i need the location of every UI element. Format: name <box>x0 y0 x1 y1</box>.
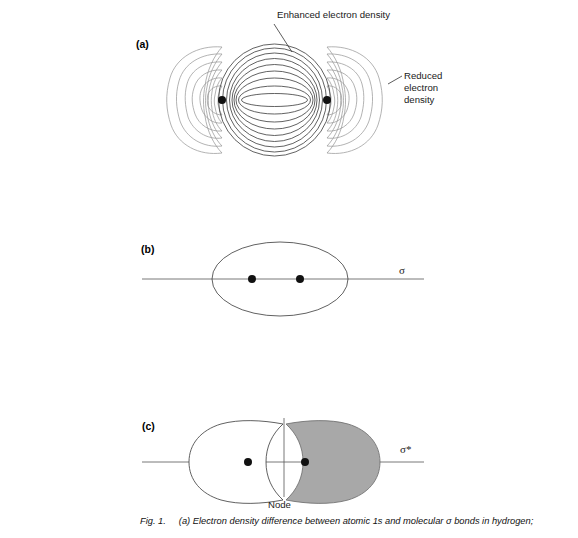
panel-c-label: (c) <box>142 420 155 432</box>
panel-a-left-reduced-contours <box>167 47 222 154</box>
panel-a-nucleus-right <box>323 96 331 104</box>
sigma-orbital-label: σ <box>399 264 405 276</box>
panel-a: (a) <box>136 9 442 156</box>
panel-a-right-reduced-contours <box>327 47 382 154</box>
reduced-electron-density-label-line1: Reduced <box>404 70 442 81</box>
figure-number: Fig. 1. <box>140 516 166 526</box>
figure-container: (a) <box>0 0 578 538</box>
panel-a-enhanced-contours <box>219 44 331 156</box>
node-label: Node <box>268 499 291 510</box>
figure-caption-text: (a) Electron density difference between … <box>179 516 533 526</box>
panel-b-nucleus-right <box>296 275 304 283</box>
reduced-electron-density-label-line2: electron <box>404 82 438 93</box>
panel-c-nucleus-right <box>301 458 309 466</box>
panel-b-label: (b) <box>141 243 154 255</box>
panel-a-label: (a) <box>136 38 149 50</box>
reduced-electron-density-leader <box>388 76 402 84</box>
panel-c: (c) Node σ* <box>142 418 424 510</box>
panel-b-nucleus-left <box>248 275 256 283</box>
panel-a-nucleus-left <box>218 96 226 104</box>
panel-c-nucleus-left <box>244 458 252 466</box>
panel-b: (b) σ <box>141 242 424 316</box>
reduced-electron-density-label-line3: density <box>404 94 435 105</box>
figure-svg: (a) <box>0 0 578 538</box>
figure-caption: Fig. 1.(a) Electron density difference b… <box>140 516 578 526</box>
enhanced-electron-density-label: Enhanced electron density <box>277 9 390 20</box>
sigma-star-orbital-label: σ* <box>400 443 411 455</box>
